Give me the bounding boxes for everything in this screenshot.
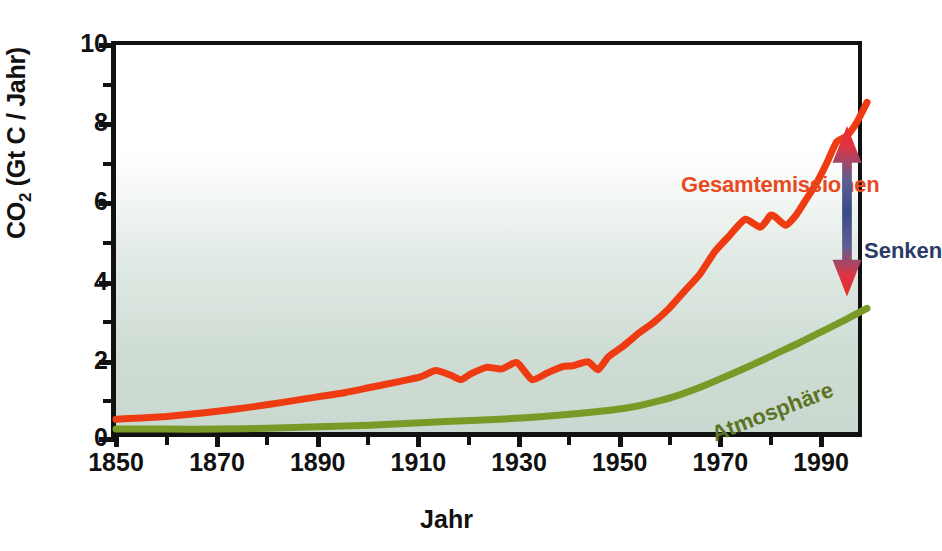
x-tick-label-1970: 1970 <box>693 450 749 475</box>
y-tick-label-2: 2 <box>94 347 108 372</box>
senken-arrow-icon <box>829 124 865 298</box>
x-tick-label-1910: 1910 <box>391 450 447 475</box>
y-tick-label-10: 10 <box>80 31 108 56</box>
y-axis-title-subscript: 2 <box>16 193 35 202</box>
y-axis-title: CO2 (Gt C / Jahr) <box>2 47 36 239</box>
x-tick-label-1850: 1850 <box>88 450 144 475</box>
x-axis-title: Jahr <box>0 505 893 534</box>
series-line-gesamtemissionen <box>116 102 867 419</box>
y-tick-minor-5 <box>103 241 116 245</box>
y-axis-title-rest: (Gt C / Jahr) <box>2 47 30 193</box>
senken-label: Senken <box>864 238 942 264</box>
x-tick-label-1890: 1890 <box>290 450 346 475</box>
y-tick-label-8: 8 <box>94 110 108 135</box>
y-tick-minor-9 <box>103 83 116 87</box>
x-tick-label-1870: 1870 <box>189 450 245 475</box>
x-tick-label-1990: 1990 <box>793 450 849 475</box>
plot-area: 10 8 6 4 2 0 1850 1870 1890 1910 1930 19… <box>111 41 862 437</box>
y-tick-label-0: 0 <box>94 425 108 450</box>
y-tick-label-4: 4 <box>94 268 108 293</box>
x-tick-label-1930: 1930 <box>491 450 547 475</box>
y-axis-title-base: CO <box>2 202 30 239</box>
series-container <box>116 45 867 441</box>
y-tick-minor-3 <box>103 320 116 324</box>
y-tick-minor-1 <box>103 399 116 403</box>
y-tick-label-6: 6 <box>94 189 108 214</box>
x-tick-label-1950: 1950 <box>592 450 648 475</box>
y-tick-minor-7 <box>103 162 116 166</box>
